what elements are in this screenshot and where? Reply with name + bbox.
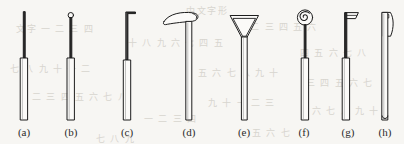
- caption-d: (d): [172, 126, 206, 138]
- implement-e: [231, 16, 259, 121]
- caption-g: (g): [331, 126, 365, 138]
- caption-a: (a): [7, 126, 41, 138]
- caption-b: (b): [54, 126, 88, 138]
- implement-a: [21, 12, 28, 120]
- implement-f: [297, 10, 312, 120]
- caption-h: (h): [368, 126, 402, 138]
- implements-drawing: [0, 0, 404, 144]
- implement-d: [163, 12, 198, 120]
- implement-h: [382, 12, 393, 120]
- caption-e: (e): [227, 126, 261, 138]
- implement-b: [67, 13, 74, 121]
- caption-f: (f): [287, 126, 321, 138]
- implement-c: [124, 12, 136, 120]
- implement-g: [343, 13, 359, 120]
- caption-c: (c): [110, 126, 144, 138]
- figure-plate: 中文字形文字 一 二 三 四十 八 九 六 七 四 五一 二 三 四 五 六四 …: [0, 0, 404, 144]
